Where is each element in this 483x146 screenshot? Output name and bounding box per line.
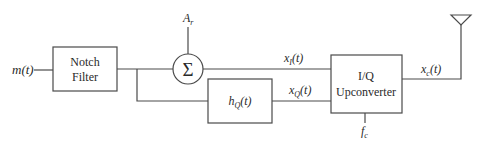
notch-filter-label-line2: Filter (72, 70, 98, 84)
ar-label: Ar (182, 11, 194, 27)
xc-label: xc(t) (420, 62, 441, 78)
notch-filter-block: Notch Filter (53, 47, 117, 91)
xq-label: xQ(t) (288, 83, 311, 99)
hq-label: hQ(t) (228, 94, 251, 110)
iq-label-line1: I/Q (358, 69, 374, 83)
hq-filter-block: hQ(t) (208, 79, 272, 123)
block-diagram: m(t) Notch Filter Ar Σ xI(t) hQ(t) xQ(t)… (0, 0, 483, 146)
sigma-icon: Σ (182, 59, 193, 80)
antenna-icon (451, 15, 471, 25)
iq-upconverter-block: I/Q Upconverter (331, 55, 402, 113)
input-label: m(t) (12, 62, 34, 77)
notch-filter-label-line1: Notch (70, 55, 99, 69)
xi-label: xI(t) (283, 51, 303, 67)
fc-label: fc (361, 124, 368, 140)
summing-junction: Σ (173, 54, 203, 84)
iq-label-line2: Upconverter (336, 85, 396, 99)
